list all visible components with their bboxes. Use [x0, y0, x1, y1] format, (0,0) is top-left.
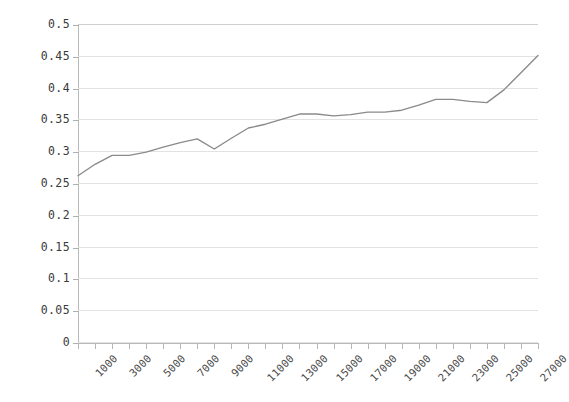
y-tick-mark	[73, 57, 79, 58]
y-tick-mark	[73, 152, 79, 153]
y-tick-mark	[73, 279, 79, 280]
y-tick-mark	[73, 89, 79, 90]
y-tick-mark	[73, 216, 79, 217]
y-tick-mark	[73, 248, 79, 249]
y-tick-mark	[73, 311, 79, 312]
y-tick-mark	[73, 184, 79, 185]
y-tick-mark	[73, 343, 79, 344]
y-tick-mark	[73, 25, 79, 26]
series-1-line	[78, 56, 538, 176]
y-tick-mark	[73, 120, 79, 121]
